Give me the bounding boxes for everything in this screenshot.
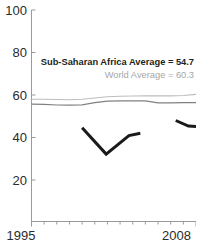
annotation-ssa-average: Sub-Saharan Africa Average = 54.7 xyxy=(41,57,194,67)
y-tick-label: 80 xyxy=(13,45,27,60)
x-axis-tick-labels: 19952008 xyxy=(7,228,191,243)
y-tick-label: 100 xyxy=(5,3,27,18)
y-axis-tick-marks xyxy=(32,10,36,180)
y-tick-label: 60 xyxy=(13,88,27,103)
line-chart: 10080604020 19952008 Sub-Saharan Africa … xyxy=(0,0,196,243)
x-tick-label: 2008 xyxy=(162,228,191,243)
y-axis-tick-labels: 10080604020 xyxy=(5,3,27,188)
series-lines xyxy=(32,94,197,154)
y-tick-label: 20 xyxy=(13,173,27,188)
chart-container: 10080604020 19952008 Sub-Saharan Africa … xyxy=(0,0,196,243)
series-line xyxy=(82,128,140,154)
x-tick-label: 1995 xyxy=(7,228,36,243)
series-line xyxy=(32,101,197,105)
series-line xyxy=(176,121,196,127)
y-tick-label: 40 xyxy=(13,130,27,145)
annotation-world-average: World Average = 60.3 xyxy=(105,70,194,80)
x-axis-tick-marks xyxy=(32,222,197,227)
series-line xyxy=(32,94,197,99)
